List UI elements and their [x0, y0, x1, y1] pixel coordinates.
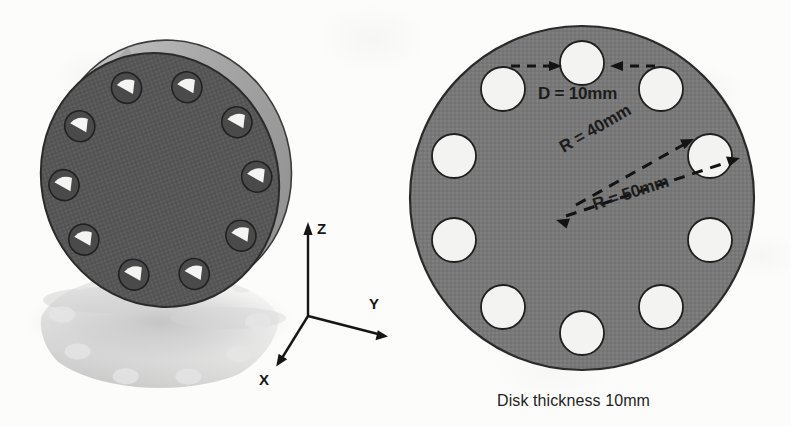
hole-8: [432, 218, 476, 262]
front-disk-view: [0, 0, 791, 427]
hole-9: [432, 134, 476, 178]
hole-6: [560, 311, 604, 355]
figure-canvas: Z Y X: [0, 0, 791, 427]
figure-caption: Disk thickness 10mm: [497, 392, 650, 410]
hole-diameter-label: D = 10mm: [538, 84, 617, 104]
hole-3: [688, 134, 732, 178]
hole-5: [639, 285, 683, 329]
hole-10: [481, 67, 525, 111]
hole-1: [560, 41, 604, 85]
hole-7: [481, 285, 525, 329]
hole-4: [688, 218, 732, 262]
hole-2: [639, 67, 683, 111]
